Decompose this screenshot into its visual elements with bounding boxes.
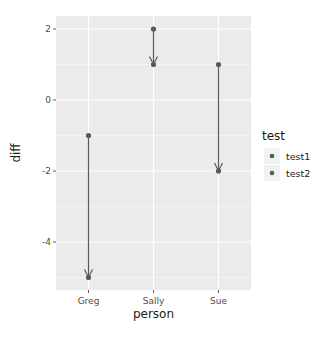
point-test2 bbox=[216, 168, 221, 173]
legend-title: test bbox=[262, 129, 285, 143]
y-tick-label: 2 bbox=[45, 24, 51, 34]
x-axis-title: person bbox=[133, 307, 174, 321]
legend-point-icon bbox=[270, 154, 275, 159]
y-tick-label: 0 bbox=[45, 95, 51, 105]
point-test1 bbox=[86, 133, 91, 138]
point-test1 bbox=[216, 62, 221, 67]
legend-label: test2 bbox=[286, 168, 310, 179]
chart: 20-2-4GregSallySuepersondifftesttest1tes… bbox=[0, 0, 333, 339]
y-tick-label: -4 bbox=[42, 237, 51, 247]
legend-point-icon bbox=[270, 171, 275, 176]
point-test2 bbox=[86, 275, 91, 280]
x-tick-label: Sue bbox=[210, 296, 227, 306]
y-axis-title: diff bbox=[9, 143, 23, 163]
x-tick-label: Sally bbox=[143, 296, 165, 306]
x-tick-label: Greg bbox=[78, 296, 100, 306]
legend-label: test1 bbox=[286, 151, 310, 162]
point-test2 bbox=[151, 62, 156, 67]
y-tick-label: -2 bbox=[42, 166, 51, 176]
point-test1 bbox=[151, 26, 156, 31]
